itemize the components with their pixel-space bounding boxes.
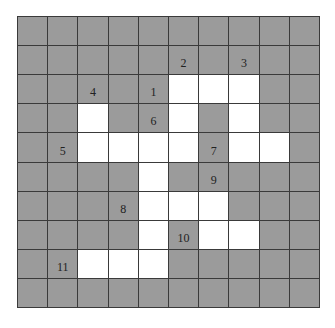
- blocked-cell: [48, 163, 77, 191]
- blocked-cell: [18, 75, 47, 103]
- blocked-cell: [139, 46, 168, 74]
- blocked-cell: [139, 279, 168, 307]
- clue-number: 10: [169, 231, 198, 246]
- open-cell[interactable]: [169, 133, 198, 161]
- clue-number: 2: [169, 56, 198, 71]
- open-cell[interactable]: [229, 133, 258, 161]
- open-cell[interactable]: [199, 75, 228, 103]
- blocked-cell: [199, 104, 228, 132]
- open-cell[interactable]: [139, 192, 168, 220]
- blocked-cell: 4: [78, 75, 107, 103]
- blocked-cell: [290, 17, 319, 45]
- open-cell[interactable]: [169, 192, 198, 220]
- blocked-cell: [290, 163, 319, 191]
- open-cell[interactable]: [260, 133, 289, 161]
- blocked-cell: [48, 279, 77, 307]
- blocked-cell: [78, 221, 107, 249]
- blocked-cell: [199, 17, 228, 45]
- open-cell[interactable]: [139, 163, 168, 191]
- blocked-cell: [260, 221, 289, 249]
- open-cell[interactable]: [109, 250, 138, 278]
- blocked-cell: [109, 17, 138, 45]
- blocked-cell: [260, 75, 289, 103]
- blocked-cell: [199, 250, 228, 278]
- blocked-cell: [48, 104, 77, 132]
- clue-number: 7: [199, 144, 228, 159]
- blocked-cell: [18, 192, 47, 220]
- blocked-cell: [109, 46, 138, 74]
- blocked-cell: [199, 46, 228, 74]
- blocked-cell: [290, 279, 319, 307]
- blocked-cell: [290, 75, 319, 103]
- blocked-cell: [290, 192, 319, 220]
- blocked-cell: [169, 163, 198, 191]
- blocked-cell: [48, 221, 77, 249]
- blocked-cell: [199, 279, 228, 307]
- open-cell[interactable]: [199, 192, 228, 220]
- blocked-cell: [260, 104, 289, 132]
- blocked-cell: [109, 221, 138, 249]
- blocked-cell: [109, 163, 138, 191]
- open-cell[interactable]: [139, 133, 168, 161]
- clue-number: 8: [109, 202, 138, 217]
- blocked-cell: [229, 163, 258, 191]
- blocked-cell: 9: [199, 163, 228, 191]
- blocked-cell: [78, 17, 107, 45]
- blocked-cell: 10: [169, 221, 198, 249]
- blocked-cell: 2: [169, 46, 198, 74]
- blocked-cell: [169, 250, 198, 278]
- open-cell[interactable]: [78, 250, 107, 278]
- blocked-cell: [78, 192, 107, 220]
- open-cell[interactable]: [169, 75, 198, 103]
- blocked-cell: [169, 279, 198, 307]
- open-cell[interactable]: [199, 221, 228, 249]
- blocked-cell: [18, 104, 47, 132]
- blocked-cell: [78, 279, 107, 307]
- blocked-cell: [18, 46, 47, 74]
- blocked-cell: [48, 75, 77, 103]
- blocked-cell: [18, 250, 47, 278]
- open-cell[interactable]: [109, 133, 138, 161]
- blocked-cell: [18, 133, 47, 161]
- blocked-cell: [260, 17, 289, 45]
- open-cell[interactable]: [229, 221, 258, 249]
- blocked-cell: [109, 104, 138, 132]
- blocked-cell: [18, 279, 47, 307]
- clue-number: 9: [199, 173, 228, 188]
- blocked-cell: [229, 192, 258, 220]
- blocked-cell: [229, 279, 258, 307]
- open-cell[interactable]: [139, 250, 168, 278]
- blocked-cell: [18, 163, 47, 191]
- open-cell[interactable]: [229, 75, 258, 103]
- blocked-cell: 1: [139, 75, 168, 103]
- blocked-cell: [290, 250, 319, 278]
- blocked-cell: [78, 163, 107, 191]
- blocked-cell: [109, 75, 138, 103]
- blocked-cell: [48, 46, 77, 74]
- blocked-cell: [290, 46, 319, 74]
- clue-number: 5: [48, 144, 77, 159]
- blocked-cell: 3: [229, 46, 258, 74]
- blocked-cell: [260, 192, 289, 220]
- blocked-cell: [109, 279, 138, 307]
- blocked-cell: [18, 221, 47, 249]
- blocked-cell: 7: [199, 133, 228, 161]
- clue-number: 11: [48, 260, 77, 275]
- blocked-cell: [139, 17, 168, 45]
- open-cell[interactable]: [139, 221, 168, 249]
- blocked-cell: [260, 163, 289, 191]
- open-cell[interactable]: [229, 104, 258, 132]
- open-cell[interactable]: [169, 104, 198, 132]
- blocked-cell: [48, 192, 77, 220]
- blocked-cell: [48, 17, 77, 45]
- blocked-cell: [169, 17, 198, 45]
- open-cell[interactable]: [78, 104, 107, 132]
- blocked-cell: [229, 250, 258, 278]
- clue-number: 3: [229, 56, 258, 71]
- blocked-cell: [260, 46, 289, 74]
- blocked-cell: 11: [48, 250, 77, 278]
- open-cell[interactable]: [78, 133, 107, 161]
- blocked-cell: 5: [48, 133, 77, 161]
- crossword-grid: 2341657981011: [17, 16, 320, 308]
- blocked-cell: [290, 133, 319, 161]
